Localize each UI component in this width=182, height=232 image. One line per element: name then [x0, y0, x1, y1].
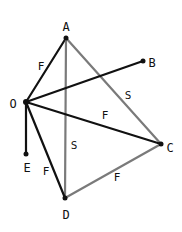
edge-label-a-o: F	[38, 60, 45, 73]
node-a	[64, 36, 69, 41]
node-label-b: B	[148, 56, 155, 70]
edge-o-d	[26, 102, 65, 198]
node-d	[63, 196, 68, 201]
edge-a-d	[65, 38, 66, 198]
node-label-c: C	[166, 141, 173, 155]
graph-diagram: FSSFFF ABOCED	[0, 0, 182, 232]
edge-label-d-c: F	[114, 171, 121, 184]
node-label-o: O	[9, 97, 16, 111]
edge-a-o	[26, 38, 66, 102]
edge-label-o-d: F	[43, 165, 50, 178]
node-c	[159, 142, 164, 147]
edge-label-a-c: S	[125, 89, 132, 102]
node-label-d: D	[62, 208, 69, 222]
node-e	[24, 152, 29, 157]
node-o	[23, 99, 29, 105]
node-label-e: E	[23, 161, 30, 175]
node-b	[141, 59, 146, 64]
node-label-a: A	[62, 20, 70, 34]
edge-label-a-d: S	[71, 139, 78, 152]
edge-label-o-c: F	[102, 109, 109, 122]
